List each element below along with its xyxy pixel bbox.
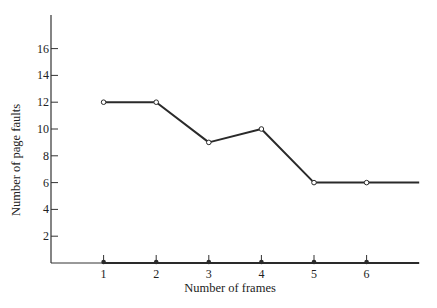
- y-tick-label: 14: [37, 68, 49, 82]
- data-point: [312, 180, 317, 185]
- data-point: [259, 127, 264, 132]
- y-tick-label: 6: [43, 176, 49, 190]
- y-ticks: 246810121416: [37, 42, 58, 244]
- y-axis-title: Number of page faults: [9, 104, 23, 216]
- x-tick-label: 1: [101, 267, 107, 281]
- y-tick-label: 8: [43, 149, 49, 163]
- data-point: [364, 180, 369, 185]
- data-point: [207, 260, 212, 265]
- y-tick-label: 12: [37, 95, 49, 109]
- y-tick-label: 2: [43, 229, 49, 243]
- data-point: [259, 260, 264, 265]
- data-point: [207, 140, 212, 145]
- axes: [51, 15, 418, 263]
- data-point: [154, 100, 159, 105]
- data-point: [364, 260, 369, 265]
- x-tick-label: 5: [311, 267, 317, 281]
- x-axis-title: Number of frames: [184, 281, 276, 295]
- line-chart: 246810121416 123456 Number of frames Num…: [0, 0, 437, 308]
- x-tick-label: 2: [153, 267, 159, 281]
- x-tick-label: 3: [206, 267, 212, 281]
- data-point: [312, 260, 317, 265]
- y-tick-label: 4: [43, 202, 49, 216]
- data-point: [101, 100, 106, 105]
- y-tick-label: 10: [37, 122, 49, 136]
- x-ticks: 123456: [101, 255, 370, 281]
- x-tick-label: 6: [364, 267, 370, 281]
- y-tick-label: 16: [37, 42, 49, 56]
- x-tick-label: 4: [258, 267, 264, 281]
- data-point: [154, 260, 159, 265]
- data-point: [101, 260, 106, 265]
- series: [101, 100, 419, 264]
- series-line-page-faults: [104, 102, 420, 182]
